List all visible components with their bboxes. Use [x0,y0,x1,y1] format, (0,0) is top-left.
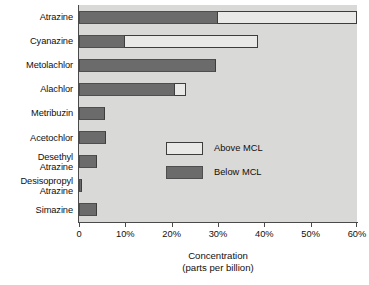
x-tick-mark [311,223,312,227]
bar-segment-below-mcl [79,83,175,96]
x-tick-label: 10% [116,229,135,240]
x-tick-label: 40% [255,229,274,240]
category-label: Desisopropyl Atrazine [0,176,73,196]
bar-segment-above-mcl [175,83,185,96]
x-tick-mark [172,223,173,227]
bar-segment-below-mcl [79,203,97,216]
x-tick-label: 30% [209,229,228,240]
bar-row [79,83,186,96]
bar-segment-below-mcl [79,131,106,144]
bar-row [79,35,258,48]
category-label: Metolachlor [0,60,73,70]
bar-row [79,11,357,24]
legend-item: Above MCL [166,141,263,156]
bar-segment-below-mcl [79,11,218,24]
x-tick-label: 60% [348,229,367,240]
category-axis: AtrazineCyanazineMetolachlorAlachlorMetr… [0,5,76,222]
legend-swatch-below-mcl [166,166,203,179]
legend-item: Below MCL [166,165,262,180]
x-tick-label: 20% [162,229,181,240]
bar-row [79,107,105,120]
category-label: Simazine [0,205,73,215]
category-label: Alachlor [0,84,73,94]
bar-row [79,203,97,216]
bar-segment-below-mcl [79,179,82,192]
x-axis-title: Concentration (parts per billion) [79,250,357,274]
bar-row [79,179,82,192]
legend-label: Above MCL [214,143,263,154]
x-tick-mark [218,223,219,227]
category-label: Acetochlor [0,133,73,143]
bar-row [79,59,216,72]
bar-row [79,131,106,144]
bar-chart: AtrazineCyanazineMetolachlorAlachlorMetr… [0,0,369,285]
x-tick-mark [125,223,126,227]
category-label: Metribuzin [0,108,73,118]
x-tick-label: 0 [76,229,81,240]
category-label: Atrazine [0,12,73,22]
legend-swatch-above-mcl [166,142,203,155]
category-label: Cyanazine [0,36,73,46]
chart-legend: Above MCLBelow MCL [166,141,276,186]
bar-segment-above-mcl [125,35,258,48]
bar-row [79,155,97,168]
bar-segment-above-mcl [218,11,357,24]
x-axis-title-line2: (parts per billion) [79,262,357,274]
x-tick-mark [356,223,357,227]
x-tick-label: 50% [301,229,320,240]
legend-label: Below MCL [214,167,262,178]
category-label: Desethyl Atrazine [0,152,73,172]
bar-segment-below-mcl [79,107,105,120]
plot-area [79,5,357,222]
x-tick-mark [79,223,80,227]
x-axis-title-line1: Concentration [79,250,357,262]
bar-segment-below-mcl [79,59,216,72]
bar-segment-below-mcl [79,155,97,168]
bar-segment-below-mcl [79,35,125,48]
x-tick-mark [264,223,265,227]
